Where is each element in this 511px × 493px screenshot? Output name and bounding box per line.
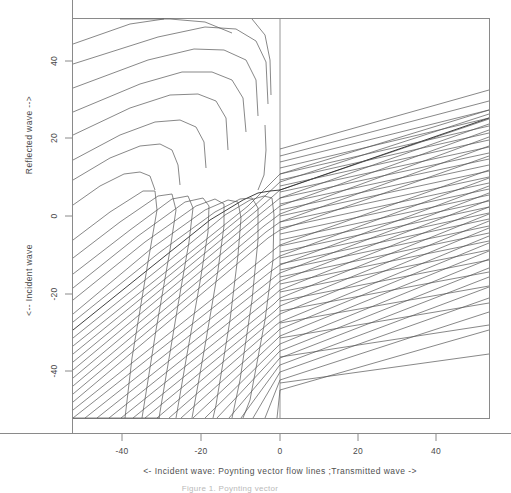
poynting-flow-chart: -40 -20 0 20 40 40 20 0 -20 -40 Reflecte… [0,0,511,493]
y-axis: 40 20 0 -20 -40 [49,0,73,433]
y-tick-label-minus40: -40 [49,364,59,377]
reflected-flow-lines [73,19,274,418]
x-axis-ticks [122,434,436,442]
y-tick-label-minus20: -20 [49,287,59,300]
x-axis-label: <- Incident wave: Poynting vector flow l… [143,466,417,476]
x-tick-label-40: 40 [431,446,441,456]
y-axis-ticks [65,61,73,371]
y-tick-label-40: 40 [49,56,59,66]
y-tick-label-zero: 0 [49,213,59,218]
y-tick-label-20: 20 [49,133,59,143]
y-axis-label-reflected: Reflected wave --> [24,96,34,174]
x-tick-label-minus40: -40 [115,446,128,456]
x-tick-label-minus20: -20 [194,446,207,456]
flow-lines-group [73,19,489,418]
plot-frame [73,19,490,419]
figure-root: -40 -20 0 20 40 40 20 0 -20 -40 Reflecte… [0,0,511,493]
y-axis-label-incident: <-- Incident wave [24,244,34,316]
x-tick-label-zero: 0 [277,446,282,456]
figure-caption-fragment: Figure 1. Poynting vector [182,484,278,493]
x-axis: -40 -20 0 20 40 [0,434,511,457]
x-tick-label-20: 20 [353,446,363,456]
